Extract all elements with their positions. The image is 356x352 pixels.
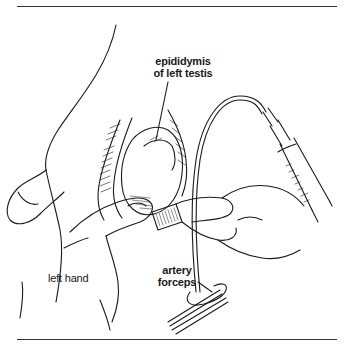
epididymis-outline	[144, 140, 175, 170]
forceps-shaft	[168, 290, 228, 334]
left-hand-heel	[20, 282, 23, 318]
left-hand-crease	[64, 238, 88, 248]
syringe-barrel	[280, 138, 330, 210]
left-thumb	[7, 170, 64, 224]
surgical-illustration	[0, 0, 356, 352]
hatching-left	[100, 124, 120, 192]
label-epididymis-line2: of left testis	[142, 67, 224, 79]
bottom-rule	[17, 339, 337, 340]
label-forceps-line2: forceps	[151, 276, 203, 288]
left-palm-inner	[106, 236, 119, 322]
catheter-tube-inner	[196, 100, 262, 292]
testis-outline	[121, 127, 182, 215]
right-hand-finger	[176, 197, 233, 222]
right-hand-thumb	[182, 222, 236, 240]
scrotum-fold-right	[168, 110, 187, 196]
left-wrist-right	[100, 300, 110, 330]
epididymis-leader	[156, 82, 168, 140]
label-artery-forceps: artery forceps	[151, 264, 203, 288]
label-epididymis-line1: epididymis	[142, 55, 224, 67]
syringe-hub	[270, 120, 290, 146]
left-index-finger	[70, 198, 152, 236]
syringe-plunger	[312, 202, 332, 222]
right-hand-knuckle	[238, 217, 262, 220]
label-epididymis: epididymis of left testis	[142, 55, 224, 79]
right-hand-back	[222, 186, 304, 207]
left-finger-nail	[128, 203, 146, 206]
label-left-hand: left hand	[48, 272, 88, 284]
right-hand-lower	[218, 240, 300, 259]
thigh-outline	[46, 25, 117, 170]
left-thumb-nail	[18, 192, 38, 204]
label-forceps-line1: artery	[151, 264, 203, 276]
